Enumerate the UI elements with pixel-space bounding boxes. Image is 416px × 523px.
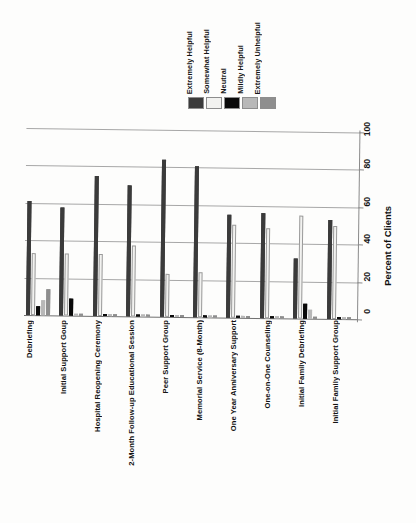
x-category-label: Initial Family Support Group [331,320,340,424]
x-category: Peer Support Group [160,318,194,518]
x-category-label: Memorial Service (8-Month) [195,320,204,420]
bar [165,274,170,317]
y-tick-label-60: 60 [362,197,372,207]
bar-group [258,131,294,318]
bar-group [291,132,327,319]
chart-page: Extremely Helpful Somewhat Helpful Neutr… [0,0,416,523]
x-category-label: Debriefing [25,320,34,358]
bar [131,245,136,316]
bar [41,300,45,315]
x-category: 2-Month Follow-up Educational Session [126,318,160,518]
bar [79,314,83,316]
bar-group [124,129,160,316]
bar-group [224,131,260,318]
x-category-label: Peer Support Group [161,320,170,393]
bar [198,272,203,317]
bar [74,314,78,316]
bar [31,253,36,315]
y-tick-label-0: 0 [362,309,372,314]
bar [64,254,69,316]
x-category: Memorial Service (8-Month) [194,318,228,518]
bar [69,299,73,316]
x-category-label: One-on-One Counseling [263,320,272,408]
x-category: Initial Family Support Group [330,318,364,518]
bar [98,254,103,316]
bar [136,314,140,316]
bar [303,304,307,319]
x-category: Debriefing [24,318,58,518]
x-category-label: Hospital Reopening Ceremony [93,320,102,432]
legend-swatch-neutral [224,97,240,109]
bar [175,315,179,317]
legend-swatch-extremely-helpful [188,97,204,109]
legend-label-mildly-helpful: Mildly Helpful [237,45,254,94]
x-axis-category-labels: DebriefingInitial Support GoupHospital R… [24,318,364,518]
bar [46,289,50,315]
bar [113,314,117,316]
x-category: One-on-One Counseling [262,318,296,518]
x-category: Initial Support Goup [58,318,92,518]
chart-legend: Extremely Helpful Somewhat Helpful Neutr… [186,2,272,114]
y-tick-label-80: 80 [362,159,372,169]
bar [180,315,184,317]
bar-group [24,128,60,315]
x-category-label: Initial Support Goup [59,320,68,394]
bar [265,228,270,318]
bar [108,314,112,316]
x-category: Hospital Reopening Ceremony [92,318,126,518]
x-category: One Year Anniversary Support [228,318,262,518]
x-category-label: Initial Family Debriefing [297,320,306,407]
bar [332,226,337,320]
legend-swatch-extremely-unhelpful [260,97,276,109]
bar [170,315,174,317]
legend-label-list: Extremely Helpful Somewhat Helpful Neutr… [186,2,272,94]
y-tick-label-40: 40 [362,234,372,244]
bar [231,224,236,318]
bar-group [57,128,93,315]
bar-group [191,130,227,317]
x-category: Initial Family Debriefing [296,318,330,518]
legend-label-extremely-unhelpful: Extremely Unhelpful [254,22,271,94]
bar [141,315,145,317]
legend-swatch-somewhat-helpful [206,97,222,109]
legend-swatch-list [188,97,276,109]
bar [36,306,40,315]
x-category-label: 2-Month Follow-up Educational Session [127,320,136,466]
legend-swatch-mildly-helpful [242,97,258,109]
y-tick-label-100: 100 [362,122,372,136]
legend-label-somewhat-helpful: Somewhat Helpful [203,29,220,94]
legend-label-neutral: Neutral [220,68,237,94]
y-tick-label-20: 20 [362,272,372,282]
bar-group [91,129,127,316]
legend-label-extremely-helpful: Extremely Helpful [186,31,203,94]
bar-groups [24,128,360,319]
x-category-label: One Year Anniversary Support [229,320,238,431]
bar [146,315,150,317]
y-axis-title: Percent of Clients [382,206,393,286]
bar [293,259,298,319]
bar-group [158,130,194,317]
y-axis-tick-labels: 020406080100 [358,120,380,325]
bar [103,314,107,316]
bar-group [325,132,361,319]
plot-area [24,128,358,316]
